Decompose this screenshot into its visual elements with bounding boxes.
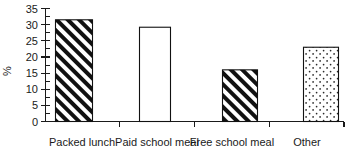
bar-free-school-meal — [223, 70, 258, 122]
chart-background — [0, 0, 346, 154]
y-tick-label-35: 35 — [26, 3, 38, 15]
y-tick-label-5: 5 — [32, 99, 38, 111]
y-tick-label-30: 30 — [26, 19, 38, 31]
chart-canvas: 35 30 25 20 15 10 5 0 % Packed lunch Pai… — [0, 0, 346, 154]
y-tick-label-20: 20 — [26, 51, 38, 63]
x-category-label-paid-school-meal: Paid school meal — [115, 136, 199, 148]
y-tick-label-15: 15 — [26, 67, 38, 79]
x-category-label-free-school-meal: Free school meal — [190, 136, 274, 148]
bar-packed-lunch — [56, 20, 93, 122]
y-axis-title: % — [1, 66, 13, 76]
x-category-label-packed-lunch: Packed lunch — [49, 136, 115, 148]
y-tick-label-10: 10 — [26, 83, 38, 95]
y-tick-label-0: 0 — [32, 116, 38, 128]
bar-paid-school-meal — [140, 27, 171, 121]
bar-other — [304, 47, 339, 121]
bar-chart: 35 30 25 20 15 10 5 0 % Packed lunch Pai… — [0, 0, 346, 154]
y-tick-label-25: 25 — [26, 35, 38, 47]
x-category-label-other: Other — [293, 136, 321, 148]
